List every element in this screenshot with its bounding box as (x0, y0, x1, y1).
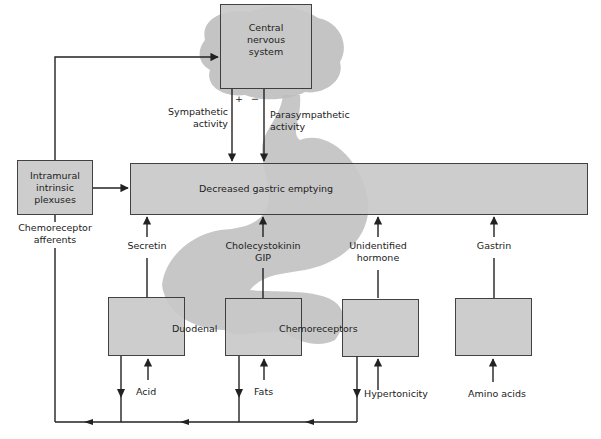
duodenal-label: Duodenal (172, 323, 218, 335)
parasympathetic-label-1: Parasympathetic (270, 109, 350, 121)
unidentified-label-2: hormone (338, 252, 418, 264)
cck-label-2: GIP (218, 252, 308, 264)
afferents-label-2: afferents (5, 234, 105, 246)
chemoreceptors-label: Chemoreceptors (279, 323, 358, 335)
fats-label: Fats (254, 386, 273, 398)
amino-acids-label: Amino acids (468, 388, 526, 400)
hypertonicity-label: Hypertonicity (364, 388, 428, 400)
amino-acid-receptor-box (455, 298, 532, 356)
cck-label-1: Cholecystokinin (218, 240, 308, 252)
plexuses-label-1: Intramural (17, 170, 93, 182)
sympathetic-label-2: activity (150, 118, 228, 130)
secretin-label: Secretin (112, 240, 182, 252)
acid-label: Acid (136, 386, 156, 398)
afferents-label-1: Chemoreceptor (5, 222, 105, 234)
plexuses-label-2: intrinsic (17, 182, 93, 194)
gastric-emptying-label: Decreased gastric emptying (199, 183, 333, 195)
sympathetic-label-1: Sympathetic (150, 106, 228, 118)
sympathetic-sign: + (234, 93, 244, 105)
plexuses-label-3: plexuses (17, 194, 93, 206)
parasympathetic-sign: − (250, 93, 260, 105)
cns-label-1: Central (220, 22, 312, 34)
cns-label-2: nervous (220, 34, 312, 46)
parasympathetic-label-2: activity (270, 121, 305, 133)
unidentified-label-1: Unidentified (338, 240, 418, 252)
cns-label-3: system (220, 46, 312, 58)
gastrin-label: Gastrin (459, 240, 529, 252)
